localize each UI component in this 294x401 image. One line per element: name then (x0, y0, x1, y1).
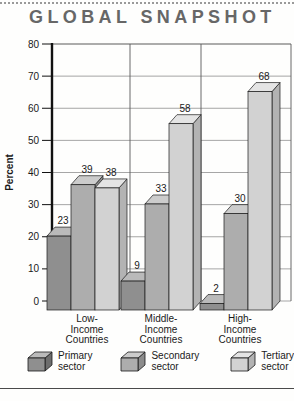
bar-value-label: 23 (57, 215, 69, 226)
legend-item-secondary: Secondarysector (120, 349, 199, 373)
bar-chart: 01020304050607080Percent2339389335823068… (0, 0, 294, 401)
category-label: Countries (140, 334, 183, 345)
y-tick-label: 50 (28, 135, 40, 146)
legend-label: Primarysector (58, 350, 92, 372)
bar-value-label: 58 (179, 103, 191, 114)
legend-label: Secondarysector (151, 350, 199, 372)
category-label: Income (71, 324, 104, 335)
bar-low-incometertiary-front (95, 188, 119, 310)
secondary-sector-cube-icon (120, 349, 147, 373)
category-label: Countries (219, 334, 262, 345)
y-tick-label: 20 (28, 231, 40, 242)
bar-low-incomesecondary-front (71, 185, 95, 310)
bar-high-incometertiary-front (248, 92, 272, 310)
y-tick-label: 30 (28, 199, 40, 210)
bar-low-incomeprimary-front (47, 236, 71, 310)
bar-value-label: 38 (105, 167, 117, 178)
y-tick-label: 40 (28, 167, 40, 178)
tertiary-sector-cube-icon (230, 349, 257, 373)
legend-item-tertiary: Tertiarysector (230, 349, 294, 373)
bar-value-label: 33 (155, 183, 167, 194)
y-tick-label: 60 (28, 103, 40, 114)
bar-value-label: 2 (213, 283, 219, 294)
category-label: Income (145, 324, 178, 335)
bar-value-label: 30 (234, 193, 246, 204)
chart-legend: PrimarysectorSecondarysectorTertiarysect… (0, 349, 294, 373)
y-tick-label: 70 (28, 71, 40, 82)
bar-middle-incomesecondary-front (145, 204, 169, 310)
page: GLOBAL SNAPSHOT 01020304050607080Percent… (0, 0, 294, 401)
bar-high-incometertiary-side (272, 83, 280, 310)
y-tick-label: 10 (28, 263, 40, 274)
legend-label: Tertiarysector (261, 350, 294, 372)
bar-high-incomesecondary-front (224, 214, 248, 310)
category-label: Middle- (145, 313, 178, 324)
bar-middle-incometertiary-front (169, 124, 193, 310)
category-label: Countries (66, 334, 109, 345)
bar-value-label: 9 (134, 260, 140, 271)
legend-item-primary: Primarysector (27, 349, 92, 373)
bar-value-label: 39 (81, 164, 93, 175)
y-tick-label: 80 (28, 39, 40, 50)
category-label: Income (224, 324, 257, 335)
bar-middle-incometertiary-side (193, 115, 201, 310)
category-label: High- (228, 313, 252, 324)
bar-middle-incomeprimary-front (121, 281, 145, 310)
y-tick-label: 0 (33, 296, 39, 307)
primary-sector-cube-icon (27, 349, 54, 373)
bar-value-label: 68 (258, 71, 270, 82)
y-axis-title: Percent (4, 153, 15, 190)
bottom-rule (0, 388, 294, 389)
bar-high-incomeprimary-front (200, 304, 224, 310)
category-label: Low- (76, 313, 98, 324)
